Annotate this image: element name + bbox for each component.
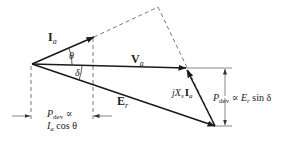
pdev-right-label: Pdev ∝ Er sin δ bbox=[212, 92, 272, 105]
ia-phasor-arrow bbox=[32, 37, 94, 64]
theta-label: θ bbox=[69, 50, 74, 61]
jxsia-label: jXsIa bbox=[170, 86, 193, 100]
delta-label: δ bbox=[75, 67, 80, 78]
phasor-diagram: Ia θ Va δ Er jXsIa Pdev ∝ Ia cos θ Pdev … bbox=[0, 0, 284, 141]
va-phasor-arrow bbox=[32, 64, 186, 68]
va-label: Va bbox=[131, 52, 144, 68]
ia-extension-dashed bbox=[94, 7, 158, 37]
pdev-left-line2: Ia cos θ bbox=[46, 120, 77, 133]
ia-label: Ia bbox=[48, 30, 57, 46]
